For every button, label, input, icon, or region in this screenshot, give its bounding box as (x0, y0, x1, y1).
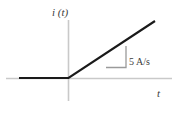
y-axis-label: i (t) (52, 7, 68, 18)
slope-annotation-label: 5 A/s (129, 57, 150, 67)
x-axis-label: t (157, 88, 160, 99)
slope-triangle (106, 46, 126, 68)
current-waveform (19, 21, 155, 78)
current-ramp-figure: i (t) t 5 A/s (0, 0, 182, 115)
plot-canvas (0, 0, 182, 115)
